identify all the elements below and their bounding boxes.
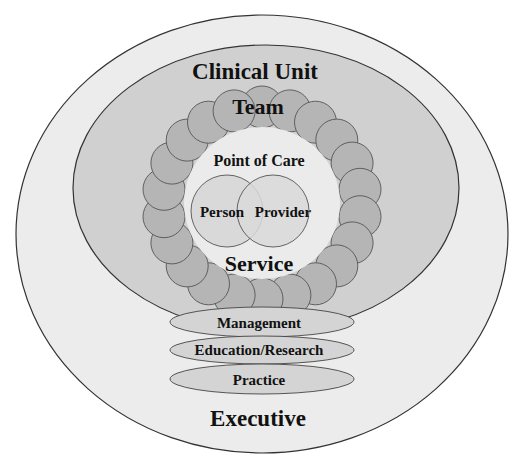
team-label: Team (232, 94, 284, 119)
point-of-care-label: Point of Care (213, 152, 304, 169)
executive-label: Executive (210, 406, 306, 431)
practice-label: Practice (233, 372, 286, 388)
management-label: Management (217, 315, 301, 331)
person-label: Person (200, 204, 245, 220)
care-model-diagram: Clinical Unit Team Point of Care Person … (0, 0, 523, 464)
provider-label: Provider (255, 204, 312, 220)
service-label: Service (225, 251, 294, 276)
clinical-unit-label: Clinical Unit (192, 59, 318, 84)
education-research-label: Education/Research (195, 342, 325, 358)
